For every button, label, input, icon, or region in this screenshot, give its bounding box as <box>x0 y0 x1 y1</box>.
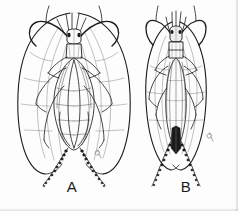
b-head <box>170 26 182 42</box>
insect-plate-drawing: .ln{fill:none;stroke:#1b1b1b;stroke-line… <box>0 0 238 211</box>
figure-plate: .ln{fill:none;stroke:#1b1b1b;stroke-line… <box>0 0 238 211</box>
a-pronotum <box>66 44 82 58</box>
figure-label-b: B <box>176 178 196 195</box>
b-pronotum <box>169 42 183 58</box>
a-head <box>67 29 81 44</box>
figure-label-a: A <box>62 178 82 195</box>
